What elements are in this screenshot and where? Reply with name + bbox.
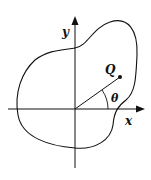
- angle-arc: [102, 90, 108, 109]
- y-axis-arrowhead-icon: [72, 16, 79, 25]
- point-q-label: Q: [105, 63, 116, 77]
- diagram-canvas: Q θ x y: [0, 0, 151, 180]
- angle-theta-label: θ: [111, 92, 119, 105]
- point-q: [118, 75, 122, 79]
- x-axis-label: x: [124, 114, 133, 128]
- y-axis-label: y: [61, 25, 70, 39]
- closed-curve: [17, 21, 137, 149]
- x-axis-arrowhead-icon: [136, 106, 145, 113]
